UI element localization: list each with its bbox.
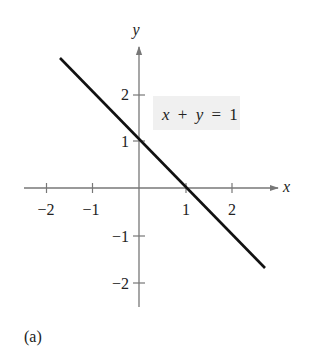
y-tick-label: 2 xyxy=(121,86,129,103)
x-axis-label: x xyxy=(282,178,290,195)
graph-figure: −2 −1 1 2 2 1 −1 −2 x y x + y = 1 xyxy=(0,0,320,351)
figure-caption: (a) xyxy=(24,328,42,346)
x-tick-label: −1 xyxy=(82,201,99,218)
x-tick-label: 1 xyxy=(182,201,190,218)
y-tick-label: −1 xyxy=(112,228,129,245)
y-axis-label: y xyxy=(130,21,140,39)
y-tick-label: −2 xyxy=(112,275,129,292)
x-tick-label: 2 xyxy=(228,201,236,218)
x-tick-label: −2 xyxy=(37,201,54,218)
y-tick-label: 1 xyxy=(121,133,129,150)
line-x-plus-y-equals-1 xyxy=(60,58,265,268)
